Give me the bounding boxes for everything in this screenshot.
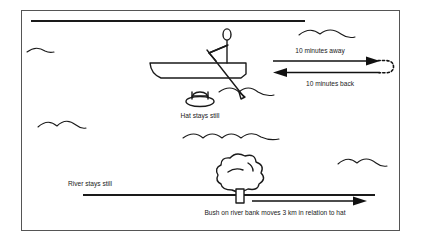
back-label: 10 minutes back xyxy=(306,80,355,87)
hat-label: Hat stays still xyxy=(181,112,220,120)
river-boat-diagram: Hat stays still 10 minutes away 10 minut… xyxy=(0,0,421,242)
rower-arms-icon xyxy=(209,46,227,62)
oar-icon xyxy=(207,50,244,97)
water-wave-icon xyxy=(219,88,274,96)
back-arrow-group xyxy=(273,68,380,77)
hat-brim-icon xyxy=(186,97,214,107)
arrow-left-icon xyxy=(273,68,287,77)
bush-label: Bush on river bank moves 3 km in relatio… xyxy=(204,209,345,216)
floating-hat-group xyxy=(186,92,214,107)
water-wave-icon xyxy=(38,121,86,128)
away-label: 10 minutes away xyxy=(295,47,345,55)
water-wave-icon xyxy=(183,134,279,140)
dashed-u-turn-icon xyxy=(378,61,394,73)
bush-motion-arrow-group xyxy=(252,197,367,206)
rowboat-icon xyxy=(150,63,246,78)
away-arrow-group xyxy=(273,57,380,66)
rower-arm-upper-icon xyxy=(209,45,228,53)
bush-canopy-icon xyxy=(217,154,264,192)
river-label: River stays still xyxy=(68,180,112,188)
water-wave-icon xyxy=(299,30,355,38)
rower-head-icon xyxy=(223,29,231,40)
water-wave-icon xyxy=(27,48,54,52)
arrow-right-icon xyxy=(353,197,367,206)
water-wave-icon xyxy=(338,159,387,166)
diagram-frame xyxy=(22,11,400,231)
bush-trunk-icon xyxy=(236,189,244,203)
diagram-canvas: Hat stays still 10 minutes away 10 minut… xyxy=(0,0,421,242)
